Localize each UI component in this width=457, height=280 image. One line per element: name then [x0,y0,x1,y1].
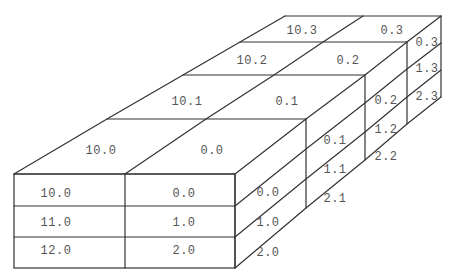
top-label: 0.0 [200,144,223,158]
front-label: 10.0 [41,187,72,201]
right-label: 0.3 [415,36,438,50]
top-label: 10.1 [172,95,203,109]
front-face-labels: 10.0 0.0 11.0 1.0 12.0 2.0 [41,187,196,258]
top-left-receding-edge [14,16,285,174]
block-diagram: 10.0 0.0 10.1 0.1 10.2 0.2 10.3 0.3 10.0… [0,0,457,280]
right-label: 2.3 [415,90,438,104]
right-label: 1.2 [374,123,397,137]
right-label: 1.0 [256,216,279,230]
front-label: 1.0 [172,216,195,230]
top-label: 0.2 [336,54,359,68]
top-label: 10.2 [237,54,268,68]
right-label: 2.2 [374,150,397,164]
front-label: 2.0 [172,244,195,258]
right-label: 2.1 [323,192,346,206]
right-label: 0.1 [323,134,346,148]
top-label: 0.1 [275,95,298,109]
top-face-labels: 10.0 0.0 10.1 0.1 10.2 0.2 10.3 0.3 [86,24,404,158]
top-label: 10.3 [287,24,318,38]
top-label: 10.0 [86,144,117,158]
right-label: 1.1 [323,163,346,177]
top-label: 0.3 [380,24,403,38]
front-label: 12.0 [41,244,72,258]
right-label: 1.3 [415,62,438,76]
front-label: 0.0 [172,187,195,201]
right-label: 0.2 [374,94,397,108]
front-label: 11.0 [41,216,72,230]
right-label: 0.0 [256,186,279,200]
right-label: 2.0 [256,246,279,260]
right-bottom-edge [235,97,441,268]
